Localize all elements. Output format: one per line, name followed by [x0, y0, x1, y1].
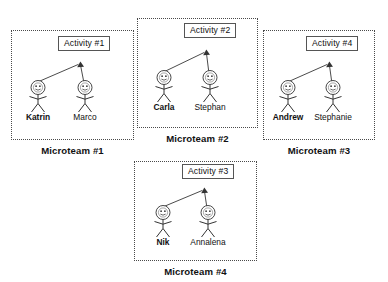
activity-label: Activity #2 — [190, 25, 230, 35]
activity-label: Activity #4 — [312, 38, 352, 48]
microteam-3-caption: Microteam #3 — [263, 146, 375, 156]
activity-box-4: Activity #3 — [182, 164, 234, 179]
microteam-4-caption: Microteam #4 — [134, 267, 257, 277]
activity-label: Activity #3 — [188, 166, 228, 176]
activity-box-1: Activity #1 — [58, 36, 110, 51]
actor-figure-marco: Marco — [68, 79, 102, 113]
actor-name-stephan: Stephan — [194, 103, 225, 111]
microteam-2-container: Activity #2 Carla — [137, 18, 258, 128]
microteam-4-container: Activity #3 Nik — [134, 161, 257, 261]
actor-name-nik: Nik — [156, 238, 169, 246]
actor-figure-nik: Nik — [146, 204, 180, 238]
actor-name-stephanie: Stephanie — [314, 113, 352, 121]
actor-figure-annalena: Annalena — [191, 204, 225, 238]
microteam-1-container: Activity #1 Katrin — [11, 30, 134, 140]
actor-figure-andrew: Andrew — [271, 79, 305, 113]
actor-figure-stephanie: Stephanie — [316, 79, 350, 113]
microteam-1-caption: Microteam #1 — [11, 146, 134, 156]
diagram-canvas: Activity #1 Katrin — [0, 0, 388, 282]
microteam-3-container: Activity #4 Andrew — [263, 30, 375, 140]
actor-figure-carla: Carla — [147, 69, 181, 103]
actor-figure-stephan: Stephan — [193, 69, 227, 103]
actor-name-marco: Marco — [73, 113, 96, 121]
activity-label: Activity #1 — [64, 38, 104, 48]
actor-figure-katrin: Katrin — [21, 79, 55, 113]
activity-box-2: Activity #2 — [184, 23, 236, 38]
actor-name-carla: Carla — [154, 103, 175, 111]
activity-box-3: Activity #4 — [306, 36, 358, 51]
actor-name-katrin: Katrin — [26, 113, 50, 121]
actor-name-annalena: Annalena — [190, 238, 225, 246]
actor-name-andrew: Andrew — [273, 113, 304, 121]
microteam-2-caption: Microteam #2 — [137, 134, 258, 144]
